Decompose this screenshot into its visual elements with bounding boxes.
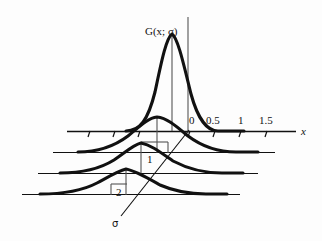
x-tick-label-0: 0 — [189, 115, 195, 126]
sigma-tick-label-1: 1 — [147, 154, 153, 165]
x-tick-label-1: 1 — [238, 115, 244, 126]
x-axis-label: x — [301, 126, 306, 137]
sigma-axis-label: σ — [112, 219, 118, 229]
gaussian-curve-sigma-0 — [126, 34, 244, 131]
sigma-tick-label-2: 2 — [116, 187, 122, 198]
function-label: G(x; σ) — [145, 26, 178, 37]
gaussian-family-figure: G(x; σ) 0 0.5 1 1.5 x 1 2 σ — [0, 0, 322, 241]
gaussian-curves — [40, 34, 258, 194]
x-tick-label-0point5: 0.5 — [206, 115, 220, 126]
x-tick-label-1point5: 1.5 — [259, 115, 273, 126]
